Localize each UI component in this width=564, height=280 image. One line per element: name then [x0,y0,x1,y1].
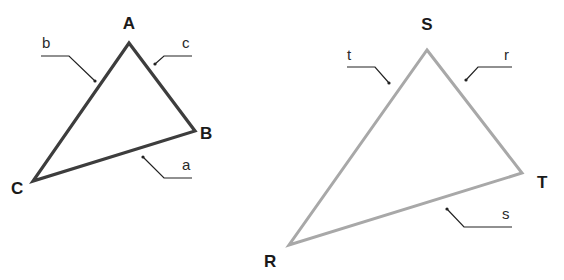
side-label-a: a [182,156,191,173]
side-label-s: s [502,205,510,222]
triangle-abc-shape [33,43,195,181]
side-label-r: r [504,46,509,63]
side-c-leader-dot [153,62,156,65]
vertex-label-s: S [421,15,432,34]
side-c-leader-line [155,56,192,64]
side-c-callout: c [153,34,192,66]
vertex-label-a: A [123,14,135,33]
side-label-t: t [347,46,352,63]
vertex-label-r: R [264,252,276,271]
side-t-leader-dot [387,81,390,84]
vertex-label-t: T [537,173,548,192]
side-a-callout: a [141,155,192,178]
vertex-label-b: B [200,124,212,143]
side-label-b: b [42,34,50,51]
side-label-c: c [182,34,190,51]
side-s-leader-dot [445,207,448,210]
side-t-leader-line [347,67,389,83]
side-b-leader-dot [93,79,96,82]
side-r-leader-line [466,67,512,80]
side-s-callout: s [445,205,512,227]
triangle-abc: A B C b c a [11,14,212,198]
side-t-callout: t [347,46,391,85]
vertex-label-c: C [11,179,23,198]
triangle-srt: S T R t r s [264,15,548,271]
side-r-leader-dot [464,78,467,81]
triangles-diagram: A B C b c a S T R t [0,0,564,280]
side-b-callout: b [41,34,97,83]
side-r-callout: r [464,46,512,82]
side-a-leader-dot [141,155,144,158]
side-b-leader-line [41,56,95,81]
triangle-srt-shape [289,50,522,245]
